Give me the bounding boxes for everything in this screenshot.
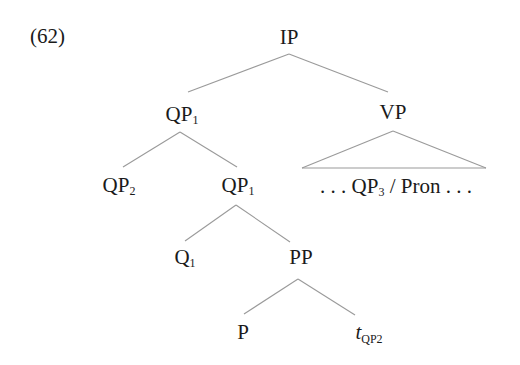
node-pp-label: PP (289, 245, 312, 269)
node-trace: tQP2 (355, 322, 382, 346)
node-vp-label: VP (380, 100, 407, 124)
vp-yield-prefix: . . . (320, 174, 352, 198)
edge-qp1-q1 (185, 205, 236, 241)
node-qp1-mid: QP1 (222, 175, 255, 199)
vp-yield-suffix: / Pron . . . (384, 174, 472, 198)
edge-qp1-qp2 (123, 132, 180, 167)
node-vp-yield: . . . QP3 / Pron . . . (320, 176, 472, 200)
node-p: P (237, 322, 249, 343)
node-q1-subscript: 1 (190, 256, 196, 270)
node-qp2-subscript: 2 (129, 184, 135, 198)
edge-ip-qp1 (188, 54, 289, 92)
node-q1-label: Q (174, 245, 189, 269)
vp-triangle-right (393, 131, 486, 168)
vp-triangle-left (302, 131, 393, 168)
vp-yield-subscript: 3 (378, 185, 384, 199)
edge-ip-vp (289, 54, 388, 92)
edge-pp-p (244, 279, 298, 314)
edge-qp1-qp1 (180, 132, 237, 167)
node-qp2-label: QP (103, 173, 130, 197)
node-ip-label: IP (280, 25, 299, 49)
edge-qp1-pp (236, 205, 290, 242)
node-ip: IP (280, 27, 299, 48)
node-qp2: QP2 (103, 175, 136, 199)
node-p-label: P (237, 320, 249, 344)
example-number: (62) (30, 26, 65, 47)
node-qp1-top-label: QP (166, 102, 193, 126)
edge-pp-t (298, 279, 355, 315)
node-q1: Q1 (174, 247, 195, 271)
node-qp1-top-subscript: 1 (192, 113, 198, 127)
node-qp1-mid-label: QP (222, 173, 249, 197)
node-pp: PP (289, 247, 312, 268)
vp-yield-label: QP (352, 174, 379, 198)
node-vp: VP (380, 102, 407, 123)
trace-label: t (355, 320, 361, 344)
trace-subscript: QP2 (361, 332, 382, 346)
node-qp1-top: QP1 (166, 104, 199, 128)
node-qp1-mid-subscript: 1 (248, 184, 254, 198)
